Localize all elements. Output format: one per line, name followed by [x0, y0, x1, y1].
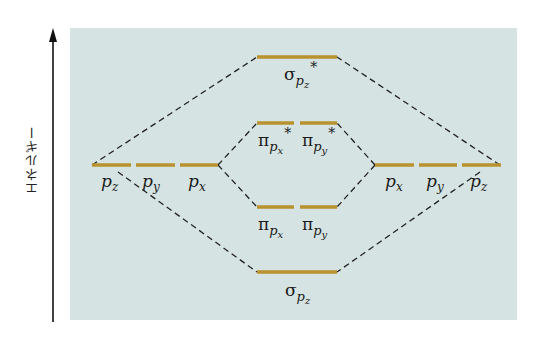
energy-axis-label: エネルギー	[22, 120, 42, 200]
label-sigma: σpz	[285, 282, 310, 299]
label-right-pz: pz	[470, 173, 487, 190]
label-left-pz: pz	[101, 173, 118, 190]
label-left-py: py	[142, 173, 160, 190]
label-pi-star-x: πpx*	[258, 132, 291, 149]
energy-levels	[92, 57, 501, 272]
label-right-px: px	[385, 173, 403, 190]
mo-diagram: エネルギー σpz* πpx* πpy* pz py px px py pz π…	[0, 0, 537, 338]
diagram-graphics	[0, 0, 537, 338]
label-left-px: px	[188, 173, 206, 190]
label-right-py: py	[426, 173, 444, 190]
label-pi-x: πpx	[258, 216, 283, 233]
label-sigma-star: σpz*	[284, 66, 317, 83]
label-pi-y: πpy	[302, 216, 327, 233]
label-pi-star-y: πpy*	[302, 132, 335, 149]
energy-axis-arrow	[49, 28, 57, 322]
